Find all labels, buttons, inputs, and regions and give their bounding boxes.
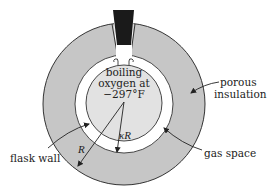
outer-radius-label: R — [77, 143, 85, 155]
porous-label-line-1: porous — [220, 76, 257, 88]
gas-space-label: gas space — [204, 147, 256, 159]
flask-wall-label: flask wall — [10, 152, 61, 164]
stopper-plug — [113, 10, 134, 45]
porous-label-line-2: insulation — [214, 88, 267, 100]
inner-radius-label: κR — [119, 129, 131, 141]
flask-diagram: boiling oxygen at −297°F R κR porous ins… — [0, 0, 272, 194]
contents-line-3: −297°F — [103, 88, 144, 100]
neck-channel — [116, 45, 132, 59]
